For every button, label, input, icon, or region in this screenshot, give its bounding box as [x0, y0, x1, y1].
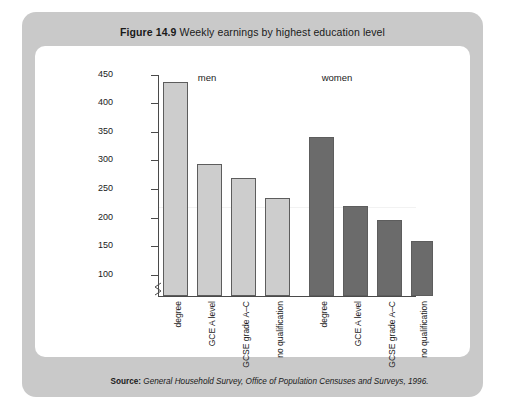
- x-label-women-gcse-a-c: GCSE grade A–C: [387, 301, 397, 368]
- bar-men-no-qualification[interactable]: [265, 198, 290, 296]
- y-tick-label-450: 450: [79, 69, 113, 79]
- y-tick-label-200: 200: [79, 212, 113, 222]
- bar-women-no-qualification[interactable]: [411, 241, 433, 296]
- x-label-women-degree: degree: [319, 301, 329, 327]
- bar-women-gce-a-level[interactable]: [343, 206, 368, 296]
- y-tick-350: [151, 132, 158, 133]
- x-label-men-degree: degree: [173, 301, 183, 327]
- figure-number: Figure 14.9: [120, 26, 177, 38]
- bar-men-gce-a-level[interactable]: [197, 164, 222, 296]
- y-tick-label-100: 100: [79, 269, 113, 279]
- y-tick-label-400: 400: [79, 97, 113, 107]
- x-label-women-no-qualification: no qualification: [419, 301, 429, 358]
- bar-men-gcse-a-c[interactable]: [231, 178, 256, 296]
- y-tick-label-350: 350: [79, 126, 113, 136]
- bars-container: [159, 75, 416, 296]
- bar-chart: 450 400 350 300 250 200 150 100 men wome…: [117, 72, 417, 357]
- y-tick-100: [151, 275, 158, 276]
- source-note: Source: General Household Survey, Office…: [22, 377, 483, 386]
- y-tick-250: [151, 189, 158, 190]
- source-text: General Household Survey, Office of Popu…: [143, 377, 428, 386]
- y-tick-150: [151, 246, 158, 247]
- x-label-men-gce-a-level: GCE A level: [207, 301, 217, 346]
- bar-men-degree[interactable]: [163, 82, 188, 296]
- y-tick-450: [151, 75, 158, 76]
- y-tick-300: [151, 160, 158, 161]
- bar-women-gcse-a-c[interactable]: [377, 220, 402, 296]
- figure-title: Figure 14.9 Weekly earnings by highest e…: [22, 26, 483, 38]
- y-tick-label-250: 250: [79, 183, 113, 193]
- bar-women-degree[interactable]: [309, 137, 334, 296]
- y-tick-400: [151, 103, 158, 104]
- y-tick-200: [151, 218, 158, 219]
- x-label-men-no-qualification: no qualification: [275, 301, 285, 358]
- figure-title-text: Weekly earnings by highest education lev…: [180, 26, 385, 38]
- y-tick-label-300: 300: [79, 154, 113, 164]
- x-label-women-gce-a-level: GCE A level: [353, 301, 363, 346]
- x-axis-line: [158, 296, 416, 297]
- chart-panel: 450 400 350 300 250 200 150 100 men wome…: [35, 46, 470, 357]
- y-tick-label-150: 150: [79, 240, 113, 250]
- x-label-men-gcse-a-c: GCSE grade A–C: [241, 301, 251, 368]
- source-prefix: Source:: [111, 377, 141, 386]
- figure-frame: Figure 14.9 Weekly earnings by highest e…: [22, 12, 483, 397]
